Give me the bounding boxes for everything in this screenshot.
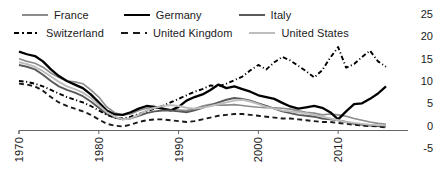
line-chart: France Germany Italy Switzerland United … [0,0,443,169]
y-tick-label-20: 20 [421,30,433,42]
y-tick-label-25: 25 [421,8,433,20]
y-tick-label-neg5: -5 [423,142,433,154]
y-tick-label-15: 15 [421,53,433,65]
x-tick-label-1980: 1980 [93,137,105,162]
x-tick-label-2000: 2000 [252,137,264,162]
x-tick-label-2010: 2010 [332,137,344,162]
y-tick-label-10: 10 [421,75,433,87]
y-tick-label-0: 0 [427,120,433,132]
x-axis-labels: 19701980199020002010 [0,0,443,169]
y-axis-labels: 2520151050-5 [411,0,441,169]
x-tick-label-1970: 1970 [13,137,25,162]
x-tick-label-1990: 1990 [173,137,185,162]
y-tick-label-5: 5 [427,97,433,109]
